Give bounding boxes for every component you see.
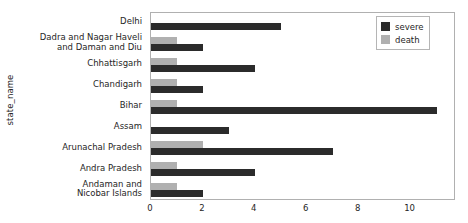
y-axis-tick-label: Andaman and Nicobar Islands <box>12 180 142 199</box>
x-axis-tick-label: 10 <box>404 203 415 213</box>
bar-death <box>151 79 177 86</box>
legend-label-severe: severe <box>395 22 423 32</box>
legend-label-death: death <box>395 35 420 45</box>
bar-severe <box>151 169 255 176</box>
y-axis-tick-label: Assam <box>12 122 142 132</box>
bar-death <box>151 58 177 65</box>
legend-item-severe: severe <box>381 20 423 33</box>
y-axis-tick-label: Andra Pradesh <box>12 164 142 174</box>
bar-severe <box>151 190 203 197</box>
bar-severe <box>151 107 437 114</box>
bar-severe <box>151 86 203 93</box>
chart-legend: severe death <box>376 16 430 50</box>
y-axis-tick-label: Delhi <box>12 18 142 28</box>
bar-death <box>151 162 177 169</box>
y-axis-tick-label: Arunachal Pradesh <box>12 143 142 153</box>
x-axis-tick-label: 8 <box>355 203 360 213</box>
x-axis-tick-labels: 0246810 <box>150 203 455 217</box>
legend-swatch-death <box>381 35 390 44</box>
y-axis-tick-label: Chhattisgarh <box>12 59 142 69</box>
bar-chart-figure: state_name DelhiDadra and Nagar Haveli a… <box>0 0 468 223</box>
y-axis-tick-labels: DelhiDadra and Nagar Haveli and Daman an… <box>14 12 146 200</box>
y-axis-tick-label: Chandigarh <box>12 80 142 90</box>
x-axis-tick-label: 2 <box>199 203 204 213</box>
x-axis-tick-label: 4 <box>251 203 256 213</box>
bar-severe <box>151 65 255 72</box>
bar-severe <box>151 23 281 30</box>
y-axis-tick-label: Dadra and Nagar Haveli and Daman and Diu <box>12 34 142 53</box>
bar-death <box>151 183 177 190</box>
y-axis-tick-label: Bihar <box>12 101 142 111</box>
x-axis-tick-label: 6 <box>303 203 308 213</box>
bar-severe <box>151 127 229 134</box>
bar-severe <box>151 148 333 155</box>
legend-item-death: death <box>381 33 423 46</box>
bar-severe <box>151 44 203 51</box>
x-axis-tick-label: 0 <box>147 203 152 213</box>
legend-swatch-severe <box>381 22 390 31</box>
bar-death <box>151 141 203 148</box>
bar-death <box>151 37 177 44</box>
bar-death <box>151 100 177 107</box>
